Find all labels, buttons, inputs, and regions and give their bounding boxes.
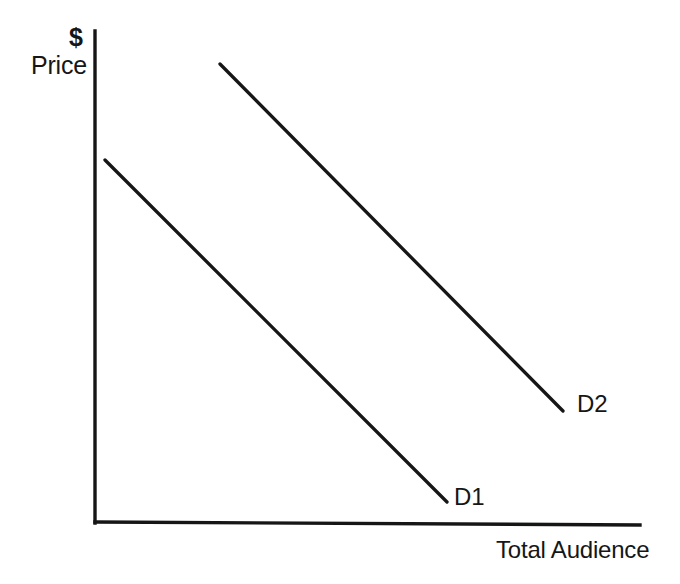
series-label-d2: D2 bbox=[577, 392, 607, 416]
x-axis-title: Total Audience bbox=[496, 538, 649, 562]
chart-canvas bbox=[0, 0, 680, 584]
y-axis-currency-symbol: $ bbox=[69, 25, 83, 50]
chart-background bbox=[0, 0, 680, 584]
series-label-d1: D1 bbox=[454, 485, 484, 509]
demand-curve-chart: $ Price D1 D2 Total Audience bbox=[0, 0, 680, 584]
y-axis-title: Price bbox=[31, 53, 87, 78]
